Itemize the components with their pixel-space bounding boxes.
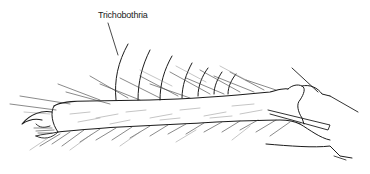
proximal-joint <box>266 68 358 160</box>
leg-segment-illustration: Trichobothria <box>0 0 370 174</box>
leg-drawing <box>0 0 370 174</box>
label-leader-line <box>108 23 118 55</box>
setae <box>10 66 290 150</box>
claws <box>22 112 58 139</box>
